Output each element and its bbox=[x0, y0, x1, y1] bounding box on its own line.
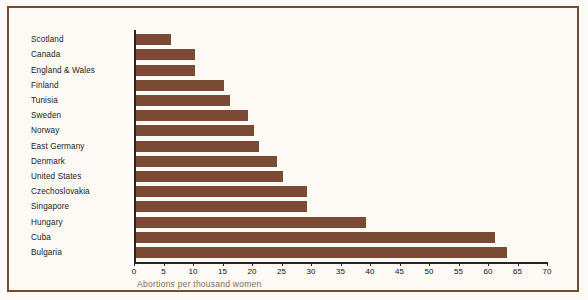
category-label: Hungary bbox=[31, 214, 127, 229]
x-tick bbox=[488, 262, 489, 266]
bar bbox=[136, 34, 171, 45]
x-tick-label: 25 bbox=[277, 267, 286, 276]
bar-row bbox=[136, 123, 566, 138]
x-tick bbox=[370, 262, 371, 266]
x-tick bbox=[311, 262, 312, 266]
chart-frame: ScotlandCanadaEngland & WalesFinlandTuni… bbox=[7, 6, 579, 292]
x-tick bbox=[547, 262, 548, 266]
bar-series bbox=[136, 32, 566, 260]
category-label: Norway bbox=[31, 123, 127, 138]
category-label: Sweden bbox=[31, 108, 127, 123]
bar bbox=[136, 171, 284, 182]
x-tick-label: 70 bbox=[543, 267, 552, 276]
x-tick bbox=[429, 262, 430, 266]
bar-row bbox=[136, 62, 566, 77]
category-label: England & Wales bbox=[31, 62, 127, 77]
category-label: Cuba bbox=[31, 230, 127, 245]
x-tick bbox=[164, 262, 165, 266]
bar-row bbox=[136, 199, 566, 214]
bar-row bbox=[136, 184, 566, 199]
bar-row bbox=[136, 138, 566, 153]
x-tick bbox=[400, 262, 401, 266]
bar bbox=[136, 65, 195, 76]
category-label: Tunisia bbox=[31, 93, 127, 108]
bar bbox=[136, 247, 508, 258]
category-label: Denmark bbox=[31, 154, 127, 169]
bar-row bbox=[136, 154, 566, 169]
x-tick-label: 60 bbox=[484, 267, 493, 276]
bar-row bbox=[136, 108, 566, 123]
x-tick bbox=[134, 262, 135, 266]
category-label: East Germany bbox=[31, 138, 127, 153]
category-label-column: ScotlandCanadaEngland & WalesFinlandTuni… bbox=[31, 32, 127, 260]
x-tick-label: 50 bbox=[425, 267, 434, 276]
bar bbox=[136, 201, 307, 212]
bar-row bbox=[136, 245, 566, 260]
bar-row bbox=[136, 214, 566, 229]
bar bbox=[136, 217, 366, 228]
x-tick bbox=[193, 262, 194, 266]
category-label: Czechoslovakia bbox=[31, 184, 127, 199]
category-label: Bulgaria bbox=[31, 245, 127, 260]
x-tick-label: 0 bbox=[132, 267, 136, 276]
x-tick-label: 40 bbox=[366, 267, 375, 276]
bar bbox=[136, 141, 260, 152]
x-tick bbox=[282, 262, 283, 266]
bar-row bbox=[136, 169, 566, 184]
bar-row bbox=[136, 78, 566, 93]
bar bbox=[136, 232, 496, 243]
plot-area: ScotlandCanadaEngland & WalesFinlandTuni… bbox=[31, 22, 571, 284]
x-tick bbox=[252, 262, 253, 266]
x-tick bbox=[459, 262, 460, 266]
x-tick-label: 35 bbox=[336, 267, 345, 276]
bar-row bbox=[136, 47, 566, 62]
bar-row bbox=[136, 32, 566, 47]
x-tick-label: 10 bbox=[189, 267, 198, 276]
x-tick bbox=[341, 262, 342, 266]
bar bbox=[136, 95, 230, 106]
x-tick bbox=[518, 262, 519, 266]
bar-row bbox=[136, 93, 566, 108]
x-tick-label: 45 bbox=[395, 267, 404, 276]
x-tick-label: 65 bbox=[513, 267, 522, 276]
category-label: United States bbox=[31, 169, 127, 184]
category-label: Finland bbox=[31, 78, 127, 93]
category-label: Scotland bbox=[31, 32, 127, 47]
bar bbox=[136, 186, 307, 197]
x-axis-title: Abortions per thousand women bbox=[137, 279, 262, 289]
x-tick-label: 15 bbox=[218, 267, 227, 276]
category-label: Singapore bbox=[31, 199, 127, 214]
x-tick-label: 30 bbox=[307, 267, 316, 276]
bar bbox=[136, 80, 225, 91]
bar bbox=[136, 110, 248, 121]
bar bbox=[136, 49, 195, 60]
x-tick-label: 5 bbox=[161, 267, 165, 276]
x-tick-label: 20 bbox=[248, 267, 257, 276]
chart-figure: ScotlandCanadaEngland & WalesFinlandTuni… bbox=[0, 0, 588, 300]
bar bbox=[136, 156, 278, 167]
category-label: Canada bbox=[31, 47, 127, 62]
bar-row bbox=[136, 230, 566, 245]
x-tick-label: 55 bbox=[454, 267, 463, 276]
bar bbox=[136, 125, 254, 136]
x-tick bbox=[223, 262, 224, 266]
